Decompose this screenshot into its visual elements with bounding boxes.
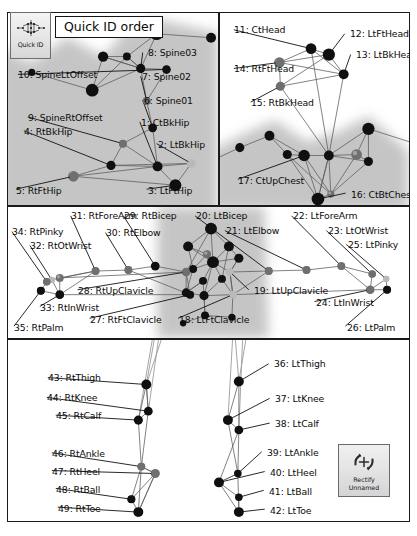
marker-node[interactable] bbox=[207, 256, 219, 268]
rectify-label-line1: Rectify bbox=[353, 476, 374, 483]
marker-label-ltankle[interactable]: 39: LtAnkle bbox=[267, 448, 319, 458]
leader-line bbox=[219, 472, 265, 483]
leader-line bbox=[106, 233, 129, 270]
marker-label-ltupclavicle[interactable]: 19: LtUpClavicle bbox=[254, 286, 328, 296]
marker-label-spine01[interactable]: 6: Spine01 bbox=[144, 96, 193, 106]
marker-node[interactable] bbox=[283, 150, 292, 159]
marker-label-cthead[interactable]: 11: CtHead bbox=[234, 25, 285, 35]
marker-label-rtftclavicle[interactable]: 27: RtFtClavicle bbox=[90, 315, 162, 325]
page-title: Quick ID order bbox=[55, 16, 163, 38]
leader-line bbox=[326, 231, 372, 274]
marker-node[interactable] bbox=[199, 277, 207, 285]
marker-label-ltpalm[interactable]: 26: LtPalm bbox=[347, 323, 395, 333]
marker-label-rtbkhead[interactable]: 15: RtBkHead bbox=[251, 98, 314, 108]
marker-label-ltknee[interactable]: 37: LtKnee bbox=[275, 394, 324, 404]
marker-label-rtheel[interactable]: 47: RtHeel bbox=[52, 467, 100, 477]
rectify-unnamed-button[interactable]: Rectify Unnamed bbox=[338, 444, 390, 497]
marker-label-ctbtchest[interactable]: 16: CtBtChest bbox=[351, 190, 410, 200]
marker-label-spineltoffset[interactable]: 10: SpineLtOffset bbox=[18, 70, 97, 80]
marker-label-rtankle[interactable]: 46: RtAnkle bbox=[52, 449, 105, 459]
marker-label-ctbkhip[interactable]: 1: CtBkHip bbox=[141, 118, 189, 128]
marker-node[interactable] bbox=[86, 84, 99, 97]
arms-and-torso-panel[interactable]: 18: LtFtClavicle19: LtUpClavicle20: LtBi… bbox=[7, 206, 410, 339]
marker-label-rtbkhip[interactable]: 4: RtBkHip bbox=[24, 127, 72, 137]
marker-label-rtinwrist[interactable]: 33: RtInWrist bbox=[40, 303, 99, 313]
leader-line bbox=[292, 216, 342, 266]
marker-label-rtfthead[interactable]: 14: RtFtHead bbox=[234, 64, 294, 74]
marker-label-ltotwrist[interactable]: 23: LtOtWrist bbox=[328, 226, 388, 236]
marker-label-ltpinky[interactable]: 25: LtPinky bbox=[348, 240, 398, 250]
quick-id-order-window: 1: CtBkHip2: LtBkHip3: LtFtHip4: RtBkHip… bbox=[0, 0, 417, 536]
marker-label-ltthigh[interactable]: 36: LtThigh bbox=[274, 359, 326, 369]
marker-node[interactable] bbox=[218, 275, 226, 283]
marker-node[interactable] bbox=[123, 53, 131, 61]
marker-label-ltbicep[interactable]: 20: LtBicep bbox=[196, 211, 247, 221]
marker-label-rtforearm[interactable]: 31: RtForeArm bbox=[71, 211, 137, 221]
marker-node[interactable] bbox=[364, 157, 373, 166]
marker-label-ltbkhead[interactable]: 13: LtBkHead bbox=[356, 50, 410, 60]
leader-line bbox=[239, 490, 264, 497]
rectify-unnamed-button-label: Rectify Unnamed bbox=[349, 476, 379, 490]
marker-label-rtthigh[interactable]: 43: RtThigh bbox=[48, 373, 101, 383]
marker-label-rtotwrist[interactable]: 32: RtOtWrist bbox=[30, 241, 91, 251]
quick-id-button[interactable]: Quick ID bbox=[10, 12, 51, 59]
marker-node[interactable] bbox=[265, 131, 275, 141]
marker-node[interactable] bbox=[203, 250, 211, 258]
marker-label-ltball[interactable]: 41: LtBall bbox=[269, 487, 312, 497]
marker-node[interactable] bbox=[98, 51, 108, 61]
marker-label-rtcalf[interactable]: 45: RtCalf bbox=[56, 411, 101, 421]
marker-node[interactable] bbox=[324, 151, 334, 161]
marker-label-ltfthead[interactable]: 12: LtFtHead bbox=[350, 29, 409, 39]
marker-node[interactable] bbox=[362, 123, 374, 135]
marker-label-rtknee[interactable]: 44: RtKnee bbox=[47, 393, 97, 403]
leader-line bbox=[239, 423, 270, 430]
marker-label-ltinwrist[interactable]: 24: LtInWrist bbox=[316, 298, 374, 308]
rectify-label-line2: Unnamed bbox=[349, 484, 379, 491]
marker-set-icon bbox=[16, 17, 46, 39]
leader-line bbox=[123, 216, 155, 266]
marker-label-ltforearm[interactable]: 22: LtForeArm bbox=[293, 211, 358, 221]
marker-label-rtupclavicle[interactable]: 28: RtUpClavicle bbox=[78, 286, 153, 296]
marker-label-ltcalf[interactable]: 38: LtCalf bbox=[275, 419, 319, 429]
marker-node[interactable] bbox=[234, 254, 243, 263]
marker-label-spine02[interactable]: 7: Spine02 bbox=[142, 72, 191, 82]
leader-line bbox=[228, 398, 270, 420]
head-and-chest-panel[interactable]: 11: CtHead12: LtFtHead13: LtBkHead14: Rt… bbox=[219, 12, 410, 206]
marker-label-rttoe[interactable]: 49: RtToe bbox=[58, 504, 101, 514]
quick-id-button-label: Quick ID bbox=[18, 41, 44, 49]
marker-label-rtfthip[interactable]: 5: RtFtHip bbox=[16, 186, 62, 196]
marker-node[interactable] bbox=[206, 33, 216, 43]
marker-node[interactable] bbox=[183, 241, 193, 251]
rectify-circular-arrow-icon bbox=[351, 450, 377, 474]
marker-label-spine03[interactable]: 8: Spine03 bbox=[148, 48, 197, 58]
leader-line bbox=[239, 364, 269, 382]
marker-node[interactable] bbox=[189, 265, 197, 273]
marker-label-ltfthip[interactable]: 3: LtFtHip bbox=[148, 186, 192, 196]
marker-node[interactable] bbox=[235, 143, 244, 152]
marker-label-spinertoffset[interactable]: 9: SpineRtOffset bbox=[28, 113, 103, 123]
marker-node[interactable] bbox=[56, 274, 64, 282]
marker-label-rtpalm[interactable]: 35: RtPalm bbox=[14, 323, 64, 333]
leader-line bbox=[329, 34, 345, 55]
marker-label-ltheel[interactable]: 40: LtHeel bbox=[270, 468, 317, 478]
leader-line bbox=[14, 291, 41, 326]
marker-node[interactable] bbox=[224, 241, 234, 251]
marker-label-ltftclavicle[interactable]: 18: LtFtClavicle bbox=[179, 315, 249, 325]
marker-label-ctupchest[interactable]: 17: CtUpChest bbox=[238, 176, 304, 186]
marker-node[interactable] bbox=[199, 291, 208, 300]
marker-label-rtelbow[interactable]: 30: RtElbow bbox=[106, 228, 161, 238]
marker-label-ltbkhip[interactable]: 2: LtBkHip bbox=[158, 140, 205, 150]
marker-label-ltelbow[interactable]: 21: LtElbow bbox=[226, 226, 279, 236]
marker-node[interactable] bbox=[351, 149, 362, 160]
marker-label-rtpinky[interactable]: 34: RtPinky bbox=[12, 227, 63, 237]
leader-line bbox=[238, 452, 262, 474]
marker-label-rtball[interactable]: 48: RtBall bbox=[56, 485, 100, 495]
marker-label-lttoe[interactable]: 42: LtToe bbox=[270, 506, 311, 516]
